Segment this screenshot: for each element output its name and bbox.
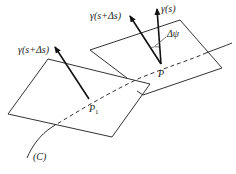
vector-gamma-s-at-p — [157, 9, 161, 64]
curve-c-dashed — [52, 53, 206, 127]
label-point-p1: P1 — [88, 103, 99, 116]
label-point-p1-main: P — [88, 103, 95, 114]
label-curve-c: (C) — [33, 151, 47, 163]
label-gamma-s: γ(s) — [161, 3, 176, 15]
plane-at-p1 — [8, 59, 150, 137]
vector-gamma-s-ds-at-p — [130, 16, 161, 64]
label-gamma-s-ds-at-p: γ(s+Δs) — [90, 10, 122, 22]
osculating-planes-diagram: γ(s) γ(s+Δs) γ(s+Δs) Δψ P P1 (C) — [0, 0, 236, 174]
label-point-p: P — [157, 68, 164, 79]
label-point-p1-subscript: 1 — [95, 108, 99, 116]
vector-gamma-s-ds-at-p1 — [55, 47, 89, 99]
angle-leader-line — [155, 37, 166, 46]
label-gamma-s-ds-at-p1: γ(s+Δs) — [18, 44, 50, 56]
curve-c-upper — [206, 43, 232, 53]
label-delta-psi: Δψ — [166, 28, 180, 39]
